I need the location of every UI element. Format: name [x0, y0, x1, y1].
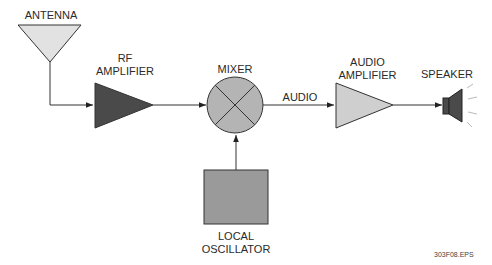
antenna-symbol	[18, 25, 81, 62]
local-oscillator-label-line1: LOCAL	[200, 230, 272, 243]
audio-amplifier-symbol	[336, 83, 393, 128]
speaker-icon	[443, 84, 477, 127]
rf-amplifier-symbol	[95, 83, 153, 128]
mixer-symbol	[207, 77, 263, 133]
mixer-label: MIXER	[205, 63, 265, 76]
speaker-label: SPEAKER	[412, 68, 482, 81]
block-diagram-canvas	[0, 0, 492, 265]
audio-amplifier-label-line1: AUDIO	[330, 56, 405, 69]
local-oscillator-label-line2: OSCILLATOR	[200, 243, 272, 256]
audio-signal-label: AUDIO	[275, 91, 325, 104]
audio-amplifier-label-line2: AMPLIFIER	[330, 69, 405, 82]
rf-amplifier-label-line2: AMPLIFIER	[90, 65, 160, 78]
file-name-label: 303F08.EPS	[434, 251, 474, 258]
rf-amplifier-label-line1: RF	[90, 52, 160, 65]
antenna-label: ANTENNA	[21, 9, 81, 22]
local-oscillator-symbol	[204, 170, 268, 224]
antenna-to-rf-line	[50, 62, 93, 105]
